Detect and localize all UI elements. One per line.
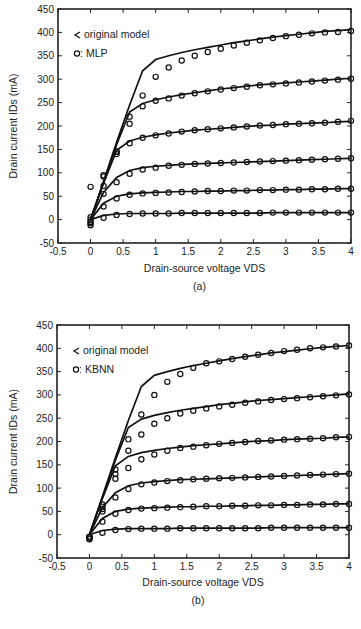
series-marker-nn (152, 392, 157, 397)
series-marker-nn (178, 371, 183, 376)
legend-line-icon (74, 348, 79, 354)
y-tick-label: -50 (40, 238, 55, 249)
series-marker-nn (166, 65, 171, 70)
y-tick-label: 0 (47, 529, 53, 540)
y-tick-label: 0 (48, 214, 54, 225)
series-marker-nn (140, 93, 145, 98)
x-tick-label: 2 (216, 561, 222, 572)
y-tick-label: 400 (37, 27, 54, 38)
x-axis-label: Drain-source voltage VDS (142, 576, 263, 588)
x-tick-label: 3 (281, 561, 287, 572)
chart-a-plot: -0.500.511.522.533.54-500501001502002503… (0, 0, 361, 320)
x-tick-label: 0 (88, 246, 94, 257)
series-marker-nn (153, 74, 158, 79)
y-tick-label: 150 (36, 459, 53, 470)
x-tick-label: 0 (87, 561, 93, 572)
series-marker-nn (192, 53, 197, 58)
y-tick-label: 150 (37, 144, 54, 155)
x-tick-label: 3.5 (310, 561, 324, 572)
legend-nn-model: KBNN (85, 363, 114, 375)
series-marker-nn (152, 421, 157, 426)
series-marker-nn (165, 379, 170, 384)
series-marker-nn (126, 448, 131, 453)
series-marker-nn (126, 486, 131, 491)
y-tick-label: 300 (36, 389, 53, 400)
y-tick-label: 450 (37, 4, 54, 15)
series-marker-nn (113, 495, 118, 500)
series-marker-nn (126, 437, 131, 442)
chart-panel-a: -0.500.511.522.533.54-500501001502002503… (0, 0, 361, 320)
y-tick-label: -50 (39, 553, 54, 564)
y-tick-label: 350 (36, 366, 53, 377)
y-axis-label: Drain current IDs (mA) (7, 389, 19, 494)
chart-b-plot: -0.500.511.522.533.54-500501001502002503… (0, 315, 361, 629)
series-marker-nn (139, 412, 144, 417)
y-tick-label: 250 (37, 97, 54, 108)
y-tick-label: 300 (37, 74, 54, 85)
x-tick-label: 2 (218, 246, 224, 257)
x-tick-label: 1.5 (180, 561, 194, 572)
series-line-original-model (91, 78, 351, 219)
x-tick-label: 0.5 (115, 561, 129, 572)
y-tick-label: 450 (36, 320, 53, 331)
y-tick-label: 200 (36, 436, 53, 447)
legend-original-model: original model (83, 344, 148, 356)
y-tick-label: 250 (36, 413, 53, 424)
series-marker-nn (218, 46, 223, 51)
y-tick-label: 400 (36, 343, 53, 354)
x-tick-label: 0.5 (116, 246, 130, 257)
x-tick-label: 2.5 (246, 246, 260, 257)
series-marker-nn (165, 416, 170, 421)
series-marker-nn (127, 171, 132, 176)
legend-nn-model: MLP (86, 47, 108, 59)
series-marker-nn (205, 49, 210, 54)
legend-line-icon (75, 32, 80, 38)
series-marker-nn (114, 180, 119, 185)
y-tick-label: 100 (36, 483, 53, 494)
x-tick-label: 3 (283, 246, 289, 257)
series-line-original-model (89, 394, 349, 535)
y-tick-label: 50 (43, 191, 55, 202)
legend-colon: : (80, 47, 83, 59)
y-axis-label: Drain current IDs (mA) (7, 73, 19, 178)
legend-colon: : (79, 363, 82, 375)
x-tick-label: 2.5 (245, 561, 259, 572)
series-marker-nn (126, 465, 131, 470)
x-axis-label: Drain-source voltage VDS (144, 262, 265, 274)
series-marker-nn (178, 411, 183, 416)
y-tick-label: 100 (37, 167, 54, 178)
series-marker-nn (88, 184, 93, 189)
series-marker-nn (152, 452, 157, 457)
legend-circle-icon (74, 51, 79, 56)
y-tick-label: 350 (37, 50, 54, 61)
panel-caption: (b) (192, 594, 205, 606)
y-tick-label: 50 (42, 506, 54, 517)
legend-circle-icon (73, 367, 78, 372)
legend-original-model: original model (84, 28, 149, 40)
x-tick-label: 4 (346, 561, 352, 572)
series-marker-nn (127, 121, 132, 126)
series-marker-nn (179, 58, 184, 63)
series-marker-nn (231, 43, 236, 48)
series-marker-nn (139, 432, 144, 437)
x-tick-label: 4 (348, 246, 354, 257)
series-marker-nn (139, 457, 144, 462)
x-tick-label: 1 (153, 246, 159, 257)
panel-caption: (a) (193, 280, 206, 292)
x-tick-label: 3.5 (311, 246, 325, 257)
x-tick-label: 1 (152, 561, 158, 572)
x-tick-label: 1.5 (181, 246, 195, 257)
chart-panel-b: -0.500.511.522.533.54-500501001502002503… (0, 315, 361, 629)
y-tick-label: 200 (37, 121, 54, 132)
